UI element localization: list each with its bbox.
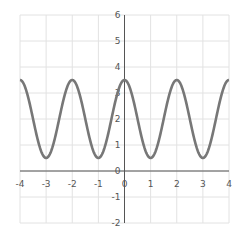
x-tick-label: 4 (226, 179, 232, 189)
x-tick-label: 1 (148, 179, 154, 189)
y-tick-label: 0 (115, 166, 121, 176)
y-tick-label: 4 (115, 62, 121, 72)
x-tick-label: -2 (68, 179, 77, 189)
y-tick-label: -1 (112, 192, 121, 202)
x-tick-label: 0 (122, 179, 128, 189)
y-tick-label: 6 (115, 10, 121, 20)
cosine-chart: -4-3-2-101234-2-10123456 (0, 0, 241, 241)
x-tick-label: 3 (200, 179, 206, 189)
x-tick-label: 2 (174, 179, 180, 189)
y-tick-label: 5 (115, 36, 121, 46)
x-tick-label: -3 (42, 179, 51, 189)
y-tick-label: 2 (115, 114, 121, 124)
y-tick-label: 1 (115, 140, 121, 150)
x-tick-label: -4 (16, 179, 25, 189)
y-tick-label: -2 (112, 218, 121, 228)
chart-canvas: -4-3-2-101234-2-10123456 (0, 0, 241, 241)
x-tick-label: -1 (94, 179, 103, 189)
